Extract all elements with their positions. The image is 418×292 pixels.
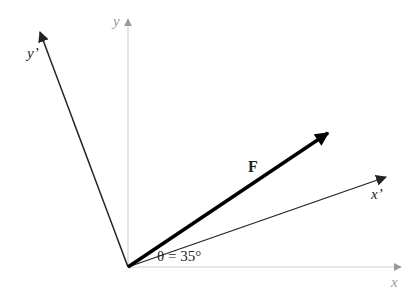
force-vector bbox=[128, 133, 328, 267]
diagram-canvas bbox=[0, 0, 418, 292]
x-axis-label: x bbox=[391, 275, 398, 290]
force-diagram: y y’ x x’ F θ = 35° bbox=[0, 0, 418, 292]
y-prime-axis-label: y’ bbox=[27, 46, 39, 61]
force-label: F bbox=[248, 159, 258, 175]
y-axis-label: y bbox=[113, 14, 120, 29]
x-prime-axis-label: x’ bbox=[371, 187, 383, 202]
y-prime-axis bbox=[40, 32, 128, 267]
angle-label: θ = 35° bbox=[157, 249, 201, 264]
